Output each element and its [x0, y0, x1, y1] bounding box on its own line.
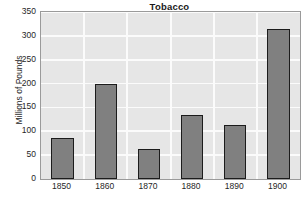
gridline-vertical	[213, 12, 215, 179]
y-tick-label: 50	[0, 149, 36, 159]
y-tick-label: 250	[0, 54, 36, 64]
y-tick-label: 0	[0, 173, 36, 183]
y-tick-label: 100	[0, 125, 36, 135]
plot-area	[40, 11, 301, 180]
gridline-vertical	[256, 12, 258, 179]
bar	[224, 125, 246, 179]
y-tick-label: 150	[0, 101, 36, 111]
chart-figure: Tobacco Millions of Pounds 0501001502002…	[0, 0, 301, 206]
gridline-vertical	[170, 12, 172, 179]
bar	[51, 138, 73, 179]
bar	[181, 115, 203, 179]
y-axis-tick-labels: 050100150200250300350	[0, 0, 36, 206]
x-tick-label: 1890	[225, 181, 244, 192]
bar	[267, 29, 289, 179]
x-axis-tick-labels: 185018601870188018901900	[40, 181, 299, 197]
x-tick-label: 1900	[268, 181, 287, 192]
x-tick-label: 1860	[95, 181, 114, 192]
x-tick-label: 1870	[138, 181, 157, 192]
bar	[95, 84, 117, 179]
plot-inner	[41, 12, 300, 179]
x-tick-label: 1850	[52, 181, 71, 192]
y-tick-label: 350	[0, 6, 36, 16]
bar	[138, 149, 160, 179]
x-tick-label: 1880	[182, 181, 201, 192]
gridline-vertical	[126, 12, 128, 179]
y-tick-label: 300	[0, 30, 36, 40]
y-tick-label: 200	[0, 78, 36, 88]
gridline-vertical	[83, 12, 85, 179]
